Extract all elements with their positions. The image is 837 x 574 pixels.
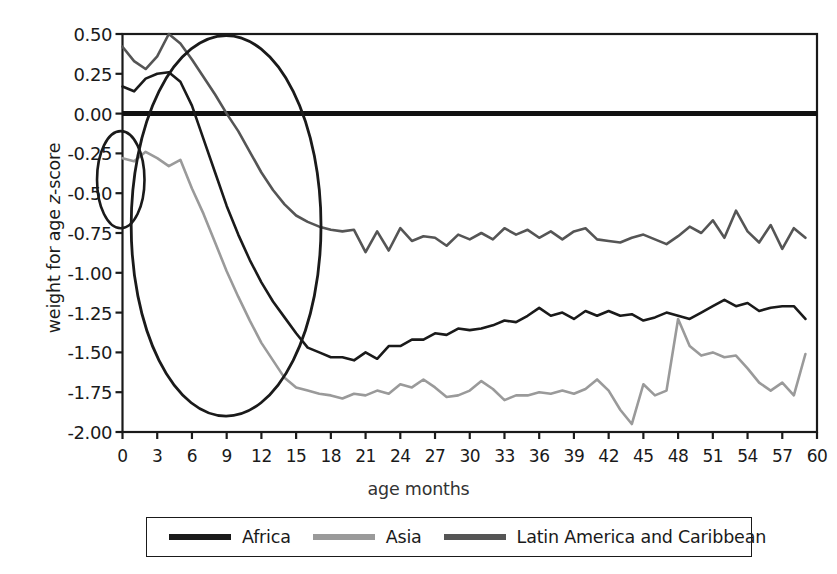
legend-swatch-icon	[444, 534, 506, 540]
legend-label: Latin America and Caribbean	[517, 527, 767, 547]
x-tick-label-4: 12	[251, 446, 272, 466]
legend-label: Asia	[386, 527, 422, 547]
x-tick-label-0: 0	[117, 446, 127, 466]
x-tick-label-14: 42	[598, 446, 619, 466]
x-tick-label-6: 18	[321, 446, 342, 466]
legend-item-africa[interactable]: Africa	[169, 527, 291, 547]
x-axis-title: age months	[0, 479, 837, 499]
chart-legend: AfricaAsiaLatin America and Caribbean	[146, 517, 752, 557]
x-tick-label-10: 30	[459, 446, 480, 466]
x-tick-label-2: 6	[187, 446, 197, 466]
x-tick-label-18: 54	[737, 446, 758, 466]
x-tick-label-17: 51	[702, 446, 723, 466]
x-tick-label-19: 57	[772, 446, 793, 466]
x-tick-label-9: 27	[425, 446, 446, 466]
chart-figure: weight for age z-score 0.500.250.00-0.25…	[0, 0, 837, 574]
x-tick-label-20: 60	[807, 446, 828, 466]
x-tick-label-7: 21	[355, 446, 376, 466]
x-tick-label-3: 9	[222, 446, 232, 466]
x-tick-label-11: 33	[494, 446, 515, 466]
legend-swatch-icon	[169, 534, 231, 540]
legend-item-latin-america-and-caribbean[interactable]: Latin America and Caribbean	[444, 527, 767, 547]
x-tick-label-15: 45	[633, 446, 654, 466]
x-tick-label-16: 48	[668, 446, 689, 466]
x-tick-label-12: 36	[529, 446, 550, 466]
x-tick-label-8: 24	[390, 446, 411, 466]
x-tick-label-1: 3	[152, 446, 162, 466]
legend-swatch-icon	[313, 534, 375, 540]
x-tick-label-13: 39	[564, 446, 585, 466]
x-tick-label-5: 15	[286, 446, 307, 466]
legend-label: Africa	[242, 527, 291, 547]
legend-item-asia[interactable]: Asia	[313, 527, 422, 547]
